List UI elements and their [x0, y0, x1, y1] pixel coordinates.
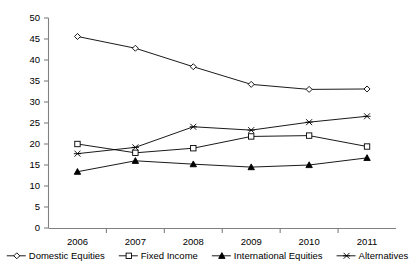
- legend-item-international-equities[interactable]: International Equities: [212, 250, 323, 261]
- data-point-marker: [132, 144, 139, 150]
- series-fixed-income: [75, 133, 370, 156]
- legend-marker: [126, 253, 131, 258]
- data-point-marker: [364, 155, 370, 161]
- series-line: [77, 136, 367, 153]
- data-point-marker: [75, 141, 80, 146]
- y-tick-label: 30: [29, 96, 40, 107]
- data-point-marker: [364, 86, 370, 92]
- data-point-marker: [74, 151, 81, 157]
- y-tick-label: 40: [29, 54, 40, 65]
- data-point-marker: [190, 124, 197, 130]
- x-tick-label: 2009: [241, 236, 262, 247]
- line-chart: 05101520253035404550 2006200720082009201…: [0, 0, 413, 275]
- data-point-marker: [306, 119, 313, 125]
- y-tick-label: 5: [35, 201, 40, 212]
- series-layer: [74, 33, 371, 174]
- legend-label: Domestic Equities: [29, 250, 105, 261]
- data-point-marker: [191, 146, 196, 151]
- legend-item-domestic-equities[interactable]: Domestic Equities: [7, 250, 105, 261]
- series-line: [77, 116, 367, 153]
- chart-canvas: 05101520253035404550 2006200720082009201…: [0, 0, 413, 275]
- data-point-marker: [190, 64, 196, 70]
- data-point-marker: [306, 133, 311, 138]
- data-point-marker: [364, 144, 369, 149]
- data-point-marker: [248, 81, 254, 87]
- x-tick-label: 2010: [299, 236, 320, 247]
- series-international-equities: [74, 155, 370, 175]
- y-tick-label: 10: [29, 180, 40, 191]
- legend-item-fixed-income[interactable]: Fixed Income: [119, 250, 198, 261]
- y-tick-label: 45: [29, 33, 40, 44]
- x-tick-label: 2011: [357, 236, 377, 247]
- legend-marker: [343, 253, 350, 259]
- data-point-marker: [363, 113, 370, 119]
- x-tick-label: 2006: [67, 236, 88, 247]
- legend-label: Alternatives: [359, 250, 409, 261]
- x-axis-ticks: 200620072008200920102011: [67, 229, 377, 248]
- chart-legend: Domestic EquitiesFixed IncomeInternation…: [7, 250, 409, 261]
- y-tick-label: 15: [29, 159, 40, 170]
- y-axis-ticks: 05101520253035404550: [29, 12, 48, 233]
- data-point-marker: [132, 45, 138, 51]
- legend-label: Fixed Income: [141, 250, 198, 261]
- data-point-marker: [248, 127, 255, 133]
- legend-label: International Equities: [234, 250, 323, 261]
- series-line: [77, 36, 367, 89]
- series-domestic-equities: [74, 33, 370, 92]
- y-tick-label: 35: [29, 75, 40, 86]
- data-point-marker: [133, 150, 138, 155]
- data-point-marker: [249, 134, 254, 139]
- legend-item-alternatives[interactable]: Alternatives: [337, 250, 409, 261]
- y-tick-label: 25: [29, 117, 40, 128]
- legend-marker: [14, 253, 20, 259]
- y-tick-label: 0: [35, 222, 40, 233]
- data-point-marker: [306, 86, 312, 92]
- y-tick-label: 50: [29, 12, 40, 23]
- x-tick-label: 2007: [125, 236, 146, 247]
- data-point-marker: [74, 33, 80, 39]
- series-line: [77, 158, 367, 172]
- y-tick-label: 20: [29, 138, 40, 149]
- x-tick-label: 2008: [183, 236, 204, 247]
